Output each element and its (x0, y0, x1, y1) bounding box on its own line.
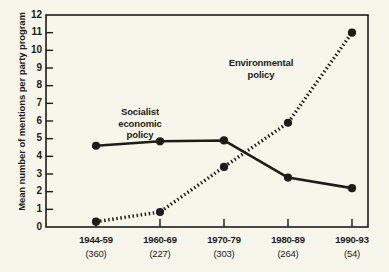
plot-frame (46, 15, 368, 227)
plot-border (46, 15, 368, 227)
data-point (92, 142, 100, 150)
x-tick-marks (96, 219, 352, 227)
data-point (348, 29, 356, 37)
data-point (348, 184, 356, 192)
data-series-layer (92, 29, 356, 226)
data-point (92, 218, 100, 226)
data-point (156, 137, 164, 145)
data-point (156, 208, 164, 216)
y-tick-marks (46, 33, 53, 210)
data-point (284, 173, 292, 181)
data-point (284, 119, 292, 127)
series-line-environmental-policy (96, 33, 352, 222)
chart-figure: Mean number of mentions per party progra… (0, 0, 389, 272)
data-point (220, 163, 228, 171)
plot-area (0, 0, 389, 272)
data-point (220, 136, 228, 144)
